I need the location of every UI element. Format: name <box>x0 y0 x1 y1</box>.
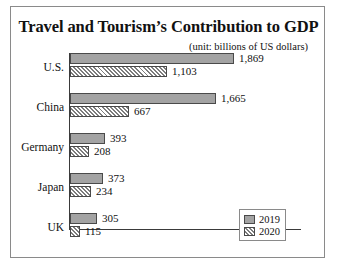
bar-row-japan-2019: 373 <box>69 173 301 184</box>
chart-unit-subtitle: (unit: billions of US dollars) <box>189 41 308 52</box>
bar-germany-2020 <box>70 146 89 157</box>
legend-label-2020: 2020 <box>259 226 280 237</box>
bar-value-us-2019: 1,869 <box>239 52 264 64</box>
legend-swatch-2020-icon <box>244 227 255 236</box>
chart-title: Travel and Tourism’s Contribution to GDP <box>11 17 326 37</box>
bar-value-china-2020: 667 <box>134 105 151 117</box>
bar-value-uk-2019: 305 <box>102 212 119 224</box>
category-label-us: U.S. <box>0 61 64 73</box>
bar-uk-2020 <box>70 226 80 237</box>
bar-value-uk-2020: 115 <box>85 225 101 237</box>
chart-legend: 2019 2020 <box>239 209 286 241</box>
bar-uk-2019 <box>70 213 97 224</box>
category-label-china: China <box>0 101 64 113</box>
bar-group-china: China 1,665 667 <box>69 93 301 119</box>
bar-value-us-2020: 1,103 <box>172 65 197 77</box>
bar-row-germany-2019: 393 <box>69 133 301 144</box>
bar-value-japan-2019: 373 <box>108 172 125 184</box>
chart-frame: Travel and Tourism’s Contribution to GDP… <box>10 6 325 258</box>
bar-value-china-2019: 1,665 <box>221 92 246 104</box>
legend-label-2019: 2019 <box>259 214 280 225</box>
legend-item-2020: 2020 <box>244 225 280 237</box>
bar-group-germany: Germany 393 208 <box>69 133 301 159</box>
category-label-uk: UK <box>0 221 64 233</box>
bar-row-germany-2020: 208 <box>69 146 301 157</box>
bar-value-japan-2020: 234 <box>96 185 113 197</box>
bar-germany-2019 <box>70 133 105 144</box>
bar-us-2019 <box>70 53 234 64</box>
bar-row-us-2020: 1,103 <box>69 66 301 77</box>
bar-us-2020 <box>70 66 167 77</box>
bar-row-us-2019: 1,869 <box>69 53 301 64</box>
bar-row-china-2019: 1,665 <box>69 93 301 104</box>
legend-item-2019: 2019 <box>244 213 280 225</box>
legend-swatch-2019-icon <box>244 215 255 224</box>
bar-japan-2020 <box>70 186 91 197</box>
category-label-germany: Germany <box>0 141 64 153</box>
bar-china-2020 <box>70 106 129 117</box>
bar-row-japan-2020: 234 <box>69 186 301 197</box>
bar-value-germany-2019: 393 <box>110 132 127 144</box>
bar-japan-2019 <box>70 173 103 184</box>
bar-group-japan: Japan 373 234 <box>69 173 301 199</box>
category-label-japan: Japan <box>0 181 64 193</box>
bar-group-us: U.S. 1,869 1,103 <box>69 53 301 79</box>
bar-china-2019 <box>70 93 216 104</box>
bar-row-china-2020: 667 <box>69 106 301 117</box>
bar-value-germany-2020: 208 <box>94 145 111 157</box>
